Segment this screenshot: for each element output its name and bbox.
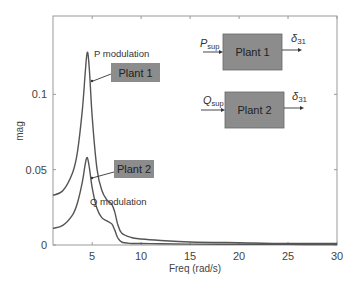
x-tick-label: 30 [331,250,343,262]
plant1-label: Plant 1 [118,67,152,79]
x-tick-label: 5 [89,250,95,262]
chart-canvas: 51015202530 00.050.1 P modulation Q modu… [0,0,360,290]
x-axis-label: Freq (rad/s) [169,263,221,274]
y-tick-label: 0.05 [26,164,47,176]
x-tick-label: 20 [233,250,245,262]
x-tick-label: 10 [135,250,147,262]
block-plant1-label: Plant 1 [235,46,269,58]
y-tick-label: 0.1 [32,88,47,100]
plant2-label: Plant 2 [117,163,151,175]
block-plant2-label: Plant 2 [237,104,271,116]
annotation-p-modulation: P modulation [94,48,149,59]
annotation-q-modulation: Q modulation [90,196,147,207]
y-axis-label: mag [14,121,25,140]
x-tick-label: 25 [282,250,294,262]
plant1-pointer-dot [91,80,93,82]
x-tick-label: 15 [184,250,196,262]
y-tick-label: 0 [41,239,47,251]
plant2-pointer-dot [91,177,93,179]
